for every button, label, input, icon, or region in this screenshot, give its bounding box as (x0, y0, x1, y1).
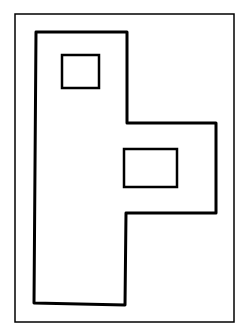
middle-window-rect (124, 149, 177, 187)
upper-window-rect (62, 55, 99, 88)
floorplan-diagram (0, 0, 248, 333)
